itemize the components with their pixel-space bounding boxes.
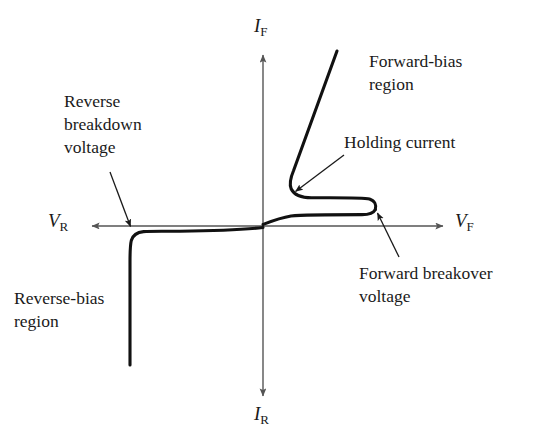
annotation-reverse-breakdown-voltage: Reverse breakdown voltage xyxy=(64,90,204,158)
axis-label-forward-voltage: VF xyxy=(455,211,474,233)
axis-label-vf-subscript: F xyxy=(467,219,474,234)
annotation-forward-bias-region: Forward-bias region xyxy=(369,50,544,96)
axis-label-reverse-current: IR xyxy=(254,404,269,426)
forward-blocking-branch xyxy=(263,210,375,225)
annotation-holding-current: Holding current xyxy=(344,131,534,154)
leader-line-forward-breakover xyxy=(378,213,400,257)
axis-label-forward-current: IF xyxy=(254,16,268,38)
leader-line-group xyxy=(110,155,399,257)
annotation-reverse-bias-region: Reverse-bias region xyxy=(14,287,149,333)
axis-label-vr-subscript: R xyxy=(60,219,69,234)
reverse-bias-branch xyxy=(130,228,263,366)
axis-label-reverse-voltage: VR xyxy=(48,211,68,233)
annotation-forward-breakover-voltage: Forward breakover voltage xyxy=(359,262,553,308)
axis-label-if-subscript: F xyxy=(260,24,267,39)
leader-line-reverse-breakdown xyxy=(110,172,131,227)
vi-characteristic-figure: IF IR VR VF Forward-bias region Reverse … xyxy=(0,0,553,440)
axis-label-ir-subscript: R xyxy=(260,412,269,427)
leader-line-holding-current xyxy=(296,155,345,192)
